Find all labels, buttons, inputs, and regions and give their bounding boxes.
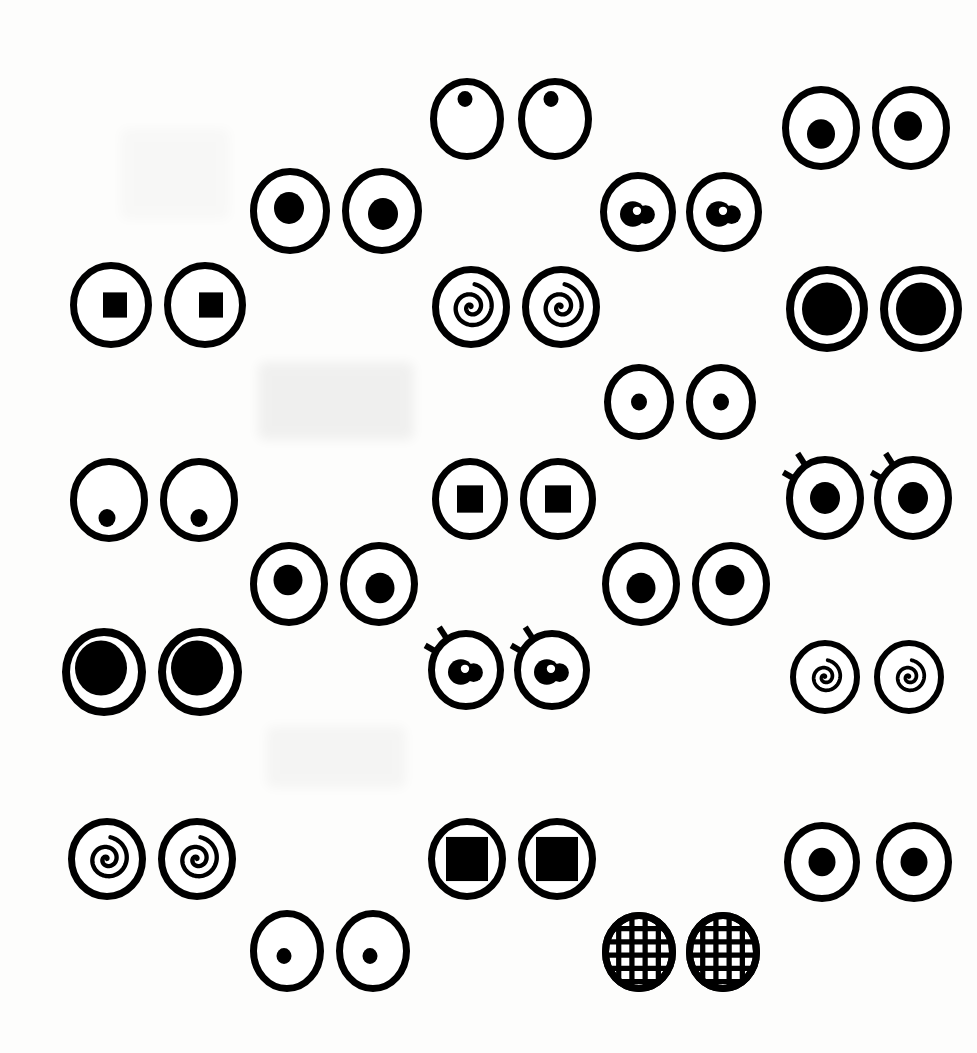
eye-right: [672, 350, 770, 454]
filled-circle-pupil-icon: [807, 119, 835, 149]
filled-circle-pupil-icon: [627, 573, 656, 604]
ghost-smudge-lower: [266, 726, 406, 788]
filled-circle-pupil-icon: [894, 111, 922, 141]
pair-03-medium-dot-left: [250, 168, 422, 254]
pair-17-spiral-bottom-left: [68, 818, 236, 900]
eye-right: [322, 896, 424, 1006]
pair-11-lashes-dot: [786, 456, 952, 540]
pair-04-blob-highlight: [600, 172, 762, 252]
pair-12-medium-dot-lower-left: [250, 542, 418, 626]
pair-19-small-dot-bottom-right: [784, 822, 952, 902]
filled-circle-pupil-icon: [810, 482, 840, 514]
filled-circle-pupil-icon: [716, 565, 745, 596]
pair-02-medium-dot-top-right: [782, 86, 950, 170]
pair-21-mesh-grid: [602, 912, 760, 992]
eye-left: [770, 808, 874, 916]
pair-01-tiny-dot-high: [430, 78, 592, 160]
pair-13-medium-dot-lower-center: [602, 542, 770, 626]
pair-15-lashes-blob: [428, 630, 590, 710]
eye-outline-icon: [74, 462, 145, 539]
pair-05-square-small: [70, 262, 246, 348]
pair-09-tiny-dot-low: [70, 458, 238, 542]
filled-circle-pupil-icon: [802, 283, 852, 336]
filled-circle-pupil-icon: [544, 91, 559, 107]
filled-circle-pupil-icon: [277, 948, 292, 964]
filled-circle-pupil-icon: [191, 509, 208, 527]
eye-right: [144, 804, 250, 914]
filled-circle-pupil-icon: [713, 394, 729, 411]
eye-right: [678, 528, 784, 640]
filled-circle-pupil-icon: [458, 91, 473, 107]
filled-circle-pupil-icon: [99, 509, 116, 527]
pair-14-huge-pupil-left: [62, 628, 242, 716]
pair-16-spiral-small-right: [790, 640, 944, 714]
eye-right: [672, 158, 776, 266]
pair-07-huge-pupil-right: [786, 266, 962, 352]
pair-20-tiny-dot-bottom: [250, 910, 410, 992]
filled-circle-pupil-icon: [274, 565, 303, 596]
eye-right: [144, 614, 256, 730]
filled-circle-pupil-icon: [901, 848, 928, 877]
filled-square-pupil-icon: [199, 292, 223, 317]
filled-circle-pupil-icon: [363, 948, 378, 964]
eye-right: [866, 252, 976, 366]
eye-right: [860, 442, 966, 554]
eye-right: [672, 898, 774, 1006]
eye-right: [150, 248, 260, 362]
filled-circle-pupil-icon: [366, 573, 395, 604]
filled-circle-pupil-icon: [274, 192, 304, 224]
pair-18-square-large: [428, 818, 596, 900]
eye-right: [862, 808, 966, 916]
eye-right: [858, 72, 964, 184]
filled-circle-pupil-icon: [171, 640, 223, 695]
filled-square-pupil-icon: [103, 292, 127, 317]
pair-10-square-medium: [432, 458, 596, 540]
filled-square-pupil-icon: [446, 837, 488, 881]
eye-right: [860, 626, 958, 728]
eye-right: [508, 252, 614, 362]
filled-square-pupil-icon: [545, 485, 571, 512]
filled-circle-pupil-icon: [898, 482, 928, 514]
filled-circle-pupil-icon: [896, 283, 946, 336]
filled-circle-pupil-icon: [75, 640, 127, 695]
pair-08-small-dot-center: [604, 364, 756, 440]
filled-square-pupil-icon: [457, 485, 483, 512]
eye-right: [328, 154, 436, 268]
ghost-smudge-upper: [258, 362, 414, 440]
eye-pattern-sheet: [0, 0, 977, 1053]
filled-circle-pupil-icon: [809, 848, 836, 877]
ghost-smudge-left: [120, 128, 230, 220]
pair-06-spiral-large: [432, 266, 600, 348]
eye-right: [500, 616, 604, 724]
filled-circle-pupil-icon: [631, 394, 647, 411]
filled-circle-pupil-icon: [368, 198, 398, 230]
filled-square-pupil-icon: [536, 837, 578, 881]
